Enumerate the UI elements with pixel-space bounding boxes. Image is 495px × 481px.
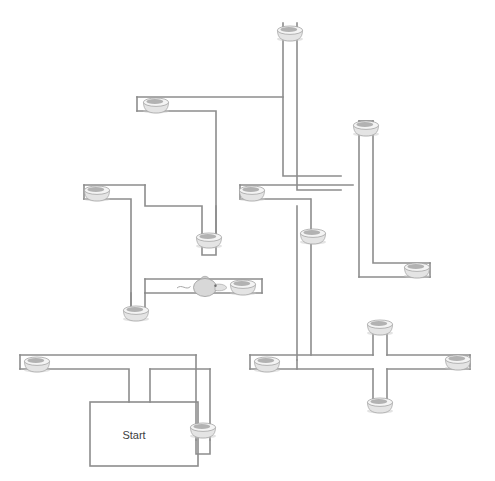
bowl-cross-bottom-icon [367, 398, 393, 414]
bowl-bottom-center-icon [190, 423, 216, 439]
food-bowls-group [24, 26, 471, 439]
bowl-right-east-icon [404, 263, 430, 279]
bowl-mouse-corridor-icon [230, 280, 256, 296]
bowl-center-icon [196, 233, 222, 249]
bowl-mid-left-icon [84, 186, 110, 202]
mid-left-arm-bottom [84, 199, 131, 312]
corridor-walls-group [20, 23, 470, 454]
bottom-left-arm-bottom [20, 369, 129, 402]
bowl-upper-left-icon [143, 98, 169, 114]
right-upper-vertical-right [373, 121, 430, 263]
bowl-mid-right-icon [239, 186, 265, 202]
bowl-right-upper-icon [353, 121, 379, 137]
bowl-bottom-left-icon [24, 357, 50, 373]
bowl-top-arm-icon [277, 26, 303, 42]
start-label: Start [122, 429, 145, 441]
bowl-cross-top-icon [367, 320, 393, 336]
bowl-left-lower-icon [123, 306, 149, 322]
bowl-cross-right-icon [445, 355, 471, 371]
bowl-right-lower-left-icon [254, 357, 280, 373]
top-vertical-arm [283, 23, 341, 176]
mid-center-vertical-left [145, 185, 202, 241]
maze-canvas: Start [0, 0, 495, 481]
bowl-right-branch-icon [300, 229, 326, 245]
maze-diagram: Start [0, 0, 495, 481]
start-chamber: Start [90, 402, 198, 466]
top-vertical-arm-right [297, 23, 341, 190]
upper-left-arm-bottom [137, 111, 216, 241]
